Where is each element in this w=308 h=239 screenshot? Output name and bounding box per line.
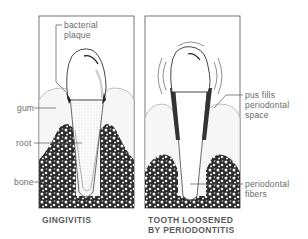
label-periodontal-fibers: periodontal fibers bbox=[245, 179, 289, 199]
label-pus-fills-periodontal-space: pus fills periodontal space bbox=[245, 90, 289, 120]
periodontitis-panel bbox=[145, 16, 240, 208]
label-bacterial-plaque: bacterial plaque bbox=[64, 20, 98, 40]
label-root: root bbox=[16, 138, 31, 148]
gingivitis-panel bbox=[39, 16, 134, 208]
caption-gingivitis: GINGIVITIS bbox=[42, 215, 91, 225]
label-gum: gum bbox=[17, 103, 34, 113]
label-bone: bone bbox=[14, 177, 34, 187]
caption-periodontitis: TOOTH LOOSENED BY PERIODONTITIS bbox=[148, 215, 235, 235]
